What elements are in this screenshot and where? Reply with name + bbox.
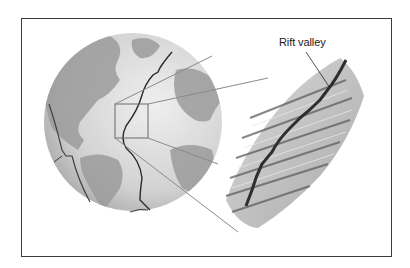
magnified-ridge — [226, 52, 364, 228]
rift-valley-label: Rift valley — [279, 36, 326, 48]
globe — [44, 33, 222, 212]
diagram-illustration — [0, 0, 410, 268]
